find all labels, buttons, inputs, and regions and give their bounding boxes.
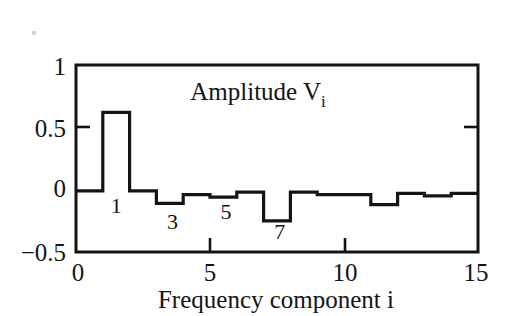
- x-tick-label-5: 5: [204, 259, 217, 286]
- y-tick-label-0.5: 0.5: [35, 115, 66, 142]
- plot-title-main: Amplitude V: [190, 78, 321, 105]
- x-tick-label-0: 0: [72, 259, 85, 286]
- amplitude-spectrum-svg: 1 0.5 0 −0.5 0 5 10 15 Amplitude Vi Freq…: [0, 0, 510, 316]
- x-axis-title: Frequency component i: [158, 286, 394, 313]
- plot-title: Amplitude Vi: [190, 78, 326, 111]
- annotation-7: 7: [274, 219, 285, 244]
- annotation-3: 3: [167, 209, 178, 234]
- scan-speck: [32, 31, 36, 35]
- annotation-5: 5: [221, 199, 232, 224]
- spectrum-step-path: [76, 112, 478, 220]
- y-tick-label-1: 1: [54, 53, 67, 80]
- x-tick-label-15: 15: [464, 259, 489, 286]
- plot-title-subscript: i: [321, 92, 326, 111]
- annotation-1: 1: [111, 193, 122, 218]
- y-tick-label-0: 0: [54, 175, 67, 202]
- x-tick-label-10: 10: [333, 259, 358, 286]
- chart-figure: 1 0.5 0 −0.5 0 5 10 15 Amplitude Vi Freq…: [0, 0, 510, 316]
- y-tick-label-minus-0.5: −0.5: [21, 239, 66, 266]
- annotation-layer: 1357: [111, 193, 285, 244]
